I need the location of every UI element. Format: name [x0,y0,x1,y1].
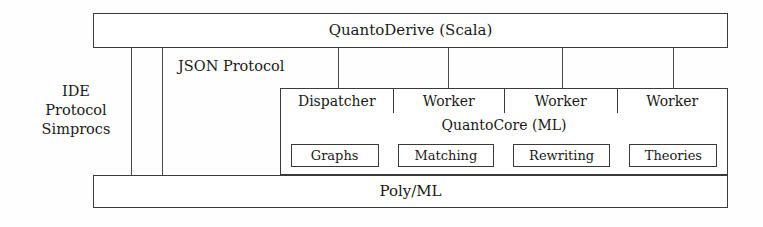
dispatcher-label: Dispatcher [298,93,376,109]
worker-cell-1: Worker [394,89,506,113]
json-protocol-label: JSON Protocol [178,58,284,74]
left-label-line-1: Protocol [28,101,124,120]
worker-label-2: Worker [535,93,587,109]
module-theories: Theories [629,144,717,167]
dispatcher-cell: Dispatcher [281,89,394,113]
polyml-box: Poly/ML [93,175,728,208]
quantocore-box: QuantoCore (ML) Graphs Matching Rewritin… [280,113,728,175]
worker-cell-3: Worker [618,89,728,113]
architecture-diagram: QuantoDerive (Scala) IDE Protocol Simpro… [0,0,763,227]
module-matching-label: Matching [414,148,477,163]
ide-connector-line-left [131,48,132,177]
json-connector-line-worker-2 [562,48,563,88]
module-graphs-label: Graphs [311,148,359,163]
worker-cell-2: Worker [505,89,618,113]
quantoderive-box: QuantoDerive (Scala) [93,13,728,48]
worker-label-3: Worker [646,93,698,109]
module-theories-label: Theories [645,148,702,163]
quantocore-label: QuantoCore (ML) [281,117,727,133]
json-connector-line-worker-1 [448,48,449,88]
ide-connector-line-right [162,48,163,177]
module-rewriting: Rewriting [513,144,610,167]
quantoderive-label: QuantoDerive (Scala) [329,23,493,39]
worker-row: Dispatcher Worker Worker Worker [280,88,728,114]
json-connector-line-worker-3 [673,48,674,88]
module-matching: Matching [398,144,494,167]
core-modules-row: Graphs Matching Rewriting Theories [281,142,727,168]
module-rewriting-label: Rewriting [529,148,594,163]
polyml-label: Poly/ML [379,184,441,200]
left-label-line-0: IDE [28,82,124,101]
json-connector-line-dispatcher [338,48,339,88]
left-label-line-2: Simprocs [28,120,124,139]
module-graphs: Graphs [291,144,379,167]
ide-protocol-simprocs-label: IDE Protocol Simprocs [28,82,124,139]
worker-label-1: Worker [423,93,475,109]
